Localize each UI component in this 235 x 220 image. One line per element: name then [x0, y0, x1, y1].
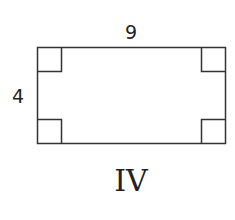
- rectangle: [38, 48, 226, 144]
- width-label: 9: [125, 21, 137, 43]
- height-label: 4: [12, 85, 24, 107]
- right-angle-marker-top-left: [38, 48, 62, 72]
- right-angle-marker-bottom-right: [202, 120, 226, 144]
- right-angle-marker-bottom-left: [38, 120, 62, 144]
- rectangle-diagram: 9 4 IV: [0, 0, 235, 220]
- right-angle-markers: [38, 48, 226, 144]
- figure-caption: IV: [114, 163, 149, 198]
- right-angle-marker-top-right: [202, 48, 226, 72]
